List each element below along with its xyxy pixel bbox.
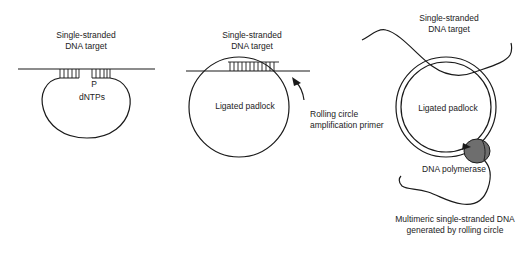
panel-2-primer-label: Rolling circle amplification primer — [310, 109, 384, 130]
panel-2-target-label-line-1: Single-stranded — [212, 30, 292, 41]
panel-3-target-label-line-1: Single-stranded — [409, 13, 489, 24]
panel-1-padlock-probe — [42, 78, 130, 138]
panel-1-left-hybrid-rungs — [60, 69, 79, 78]
panel-2-target-label: Single-stranded DNA target — [212, 30, 292, 51]
panel-1-phosphate-label: P — [88, 79, 100, 90]
panel-1-target-label: Single-stranded DNA target — [46, 30, 126, 51]
panel-3-padlock-label: Ligated padlock — [413, 103, 483, 114]
panel-1-graphic — [18, 69, 155, 138]
panel-2-padlock-label: Ligated padlock — [210, 101, 280, 112]
panel-2-primer-label-line-1: Rolling circle — [310, 109, 384, 120]
panel-3-target-strand — [362, 30, 512, 76]
panel-3-product-label-line-2: generated by rolling circle — [385, 225, 525, 236]
panel-1-dntps-label: dNTPs — [72, 92, 112, 103]
panel-2-primer-label-line-2: amplification primer — [310, 120, 384, 131]
panel-3-dna-polymerase — [464, 139, 490, 163]
panel-2-primer-strand — [296, 82, 304, 100]
panel-1-target-label-line-2: DNA target — [46, 41, 126, 52]
panel-2-target-label-line-2: DNA target — [212, 41, 292, 52]
panel-1-target-label-line-1: Single-stranded — [46, 30, 126, 41]
panel-3-target-label: Single-stranded DNA target — [409, 13, 489, 34]
panel-3-target-label-line-2: DNA target — [409, 24, 489, 35]
panel-1-right-hybrid-rungs — [92, 69, 110, 78]
panel-3-polymerase-label: DNA polymerase — [416, 164, 492, 175]
panel-3-product-label: Multimeric single-stranded DNA generated… — [385, 214, 525, 235]
panel-3-product-label-line-1: Multimeric single-stranded DNA — [385, 214, 525, 225]
panel-2-primer-arrowhead — [292, 77, 301, 86]
panel-3-graphic — [362, 30, 512, 205]
